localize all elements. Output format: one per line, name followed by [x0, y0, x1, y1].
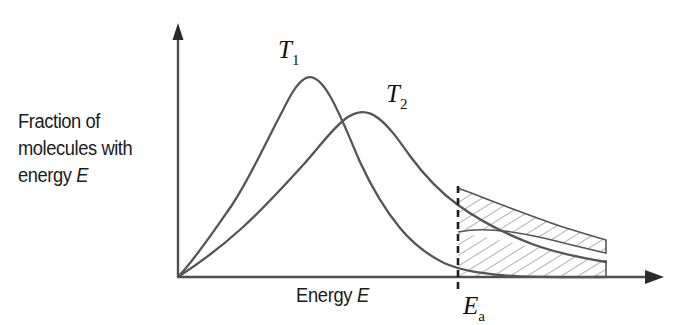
curve-label-T2: T2 [386, 80, 407, 112]
x-axis-label: Energy E [296, 283, 369, 307]
y-axis-label-line1: Fraction of [18, 108, 161, 135]
y-axis-label-line2: molecules with [18, 135, 161, 162]
y-axis-label-energy-symbol: E [76, 164, 88, 186]
x-axis-label-energy-symbol: E [357, 284, 369, 306]
y-axis-label-line3: energy E [18, 162, 161, 189]
y-axis-label-line3-text: energy [18, 164, 76, 186]
x-axis-label-text: Energy [296, 284, 357, 306]
x-axis-arrow-icon [645, 270, 664, 284]
curve-label-T1: T1 [278, 36, 299, 68]
threshold-label-Ea: Ea [462, 292, 485, 324]
y-axis-label: Fraction of molecules with energy E [18, 108, 161, 189]
y-axis-arrow-icon [173, 23, 184, 40]
figure-canvas: T1 T2 Ea Fraction of molecules with ener… [0, 0, 687, 325]
